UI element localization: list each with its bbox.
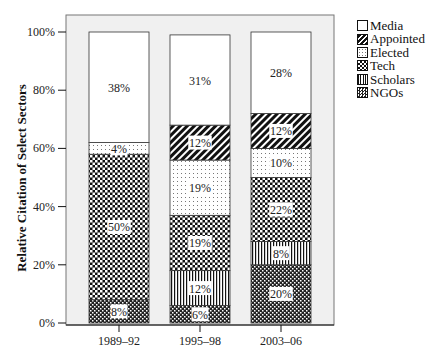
legend-item-elected: Elected [357,46,425,59]
legend-label: Media [370,19,403,32]
legend-label: NGOs [370,86,403,99]
data-label: 8% [111,305,127,319]
data-label: 28% [270,66,292,80]
data-label: 31% [189,74,211,88]
legend-label: Tech [370,59,395,72]
legend-swatch-icon [357,87,368,98]
data-label: 22% [270,203,292,217]
data-label: 12% [270,124,292,138]
data-label: 12% [189,136,211,150]
data-label: 4% [111,142,127,156]
legend-item-scholars: Scholars [357,73,425,86]
y-tick-label: 40% [33,200,55,214]
bar-1995–98: 6%12%19%19%12%31% [170,35,230,323]
legend-swatch-icon [357,74,368,85]
legend-label: Elected [370,46,409,59]
y-tick-label: 60% [33,141,55,155]
bar-1989–92: 8%50%4%38% [89,32,149,323]
y-tick-label: 0% [39,316,55,330]
legend-item-ngos: NGOs [357,86,425,99]
y-tick-label: 20% [33,258,55,272]
x-axis: 1989–921995–982003–06 [98,325,302,348]
data-label: 12% [189,282,211,296]
data-label: 20% [270,287,292,301]
legend: MediaAppointedElectedTechScholarsNGOs [357,19,425,99]
legend-label: Scholars [370,73,415,86]
y-tick-label: 80% [33,83,55,97]
legend-label: Appointed [370,32,425,45]
y-tick-label: 100% [27,25,55,39]
x-tick-label: 1995–98 [179,334,221,348]
data-label: 6% [192,308,208,322]
bars: 8%50%4%38%6%12%19%19%12%31%20%8%22%10%12… [89,32,311,323]
data-label: 8% [273,247,289,261]
legend-swatch-icon [357,60,368,71]
legend-item-tech: Tech [357,59,425,72]
x-tick-label: 2003–06 [260,334,302,348]
x-tick-label: 1989–92 [98,334,140,348]
data-label: 19% [189,236,211,250]
legend-swatch-icon [357,34,368,45]
data-label: 19% [189,181,211,195]
data-label: 38% [108,81,130,95]
data-label: 10% [270,156,292,170]
legend-item-media: Media [357,19,425,32]
legend-swatch-icon [357,20,368,31]
legend-swatch-icon [357,47,368,58]
legend-item-appointed: Appointed [357,32,425,45]
data-label: 50% [108,220,130,234]
y-axis-label: Relative Citation of Select Sectors [14,84,30,272]
bar-2003–06: 20%8%22%10%12%28% [251,32,311,323]
